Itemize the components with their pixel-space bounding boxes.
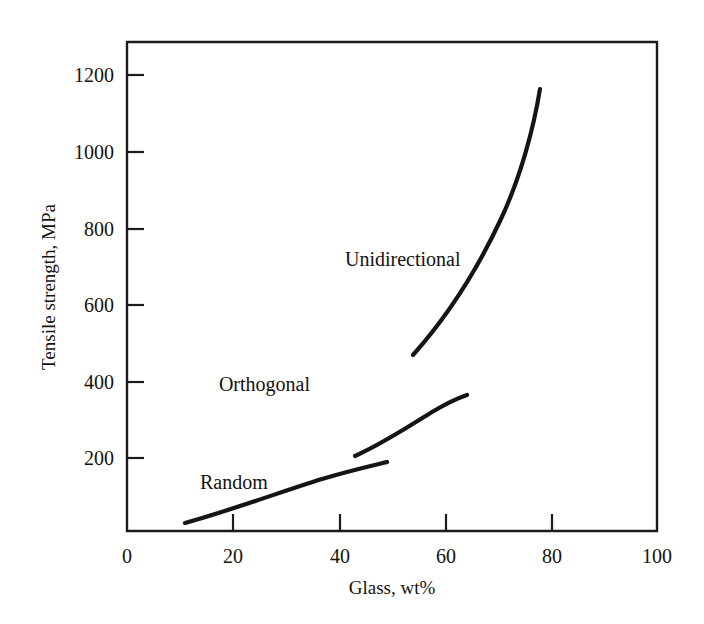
x-tick-label-80: 80 (542, 545, 562, 567)
y-tick-label-1000: 1000 (74, 141, 114, 163)
y-axis-ticks (127, 75, 144, 458)
chart-figure: 1200 1000 800 600 400 200 0 20 40 60 80 … (0, 0, 704, 624)
x-tick-label-0: 0 (122, 545, 132, 567)
y-tick-label-400: 400 (84, 371, 114, 393)
x-axis-ticks (233, 514, 552, 531)
plot-frame (127, 42, 657, 531)
curve-unidirectional (413, 89, 540, 355)
y-tick-label-1200: 1200 (74, 64, 114, 86)
series-labels: Unidirectional Orthogonal Random (200, 248, 461, 493)
tensile-strength-plot: 1200 1000 800 600 400 200 0 20 40 60 80 … (0, 0, 704, 624)
x-tick-label-40: 40 (330, 545, 350, 567)
x-tick-label-100: 100 (642, 545, 672, 567)
y-axis-title: Tensile strength, MPa (38, 203, 59, 370)
x-axis-title: Glass, wt% (349, 577, 436, 598)
x-tick-label-20: 20 (223, 545, 243, 567)
y-tick-label-800: 800 (84, 218, 114, 240)
y-tick-label-600: 600 (84, 294, 114, 316)
series-label-random: Random (200, 471, 268, 493)
y-tick-label-200: 200 (84, 447, 114, 469)
x-axis-tick-labels: 0 20 40 60 80 100 (122, 545, 672, 567)
curve-orthogonal (355, 395, 467, 456)
series-label-orthogonal: Orthogonal (219, 373, 311, 396)
axes-box (127, 42, 657, 531)
x-tick-label-60: 60 (436, 545, 456, 567)
y-axis-tick-labels: 1200 1000 800 600 400 200 (74, 64, 114, 469)
data-series-group (185, 89, 540, 523)
series-label-unidirectional: Unidirectional (345, 248, 461, 270)
